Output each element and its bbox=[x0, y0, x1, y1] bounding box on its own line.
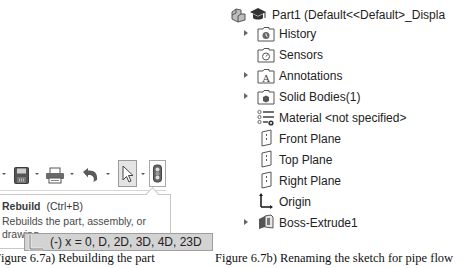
expand-arrow-icon[interactable] bbox=[244, 30, 248, 36]
annotations-folder-icon: A bbox=[257, 67, 275, 85]
origin-icon bbox=[257, 192, 275, 210]
new-dropdown-arrow-icon[interactable] bbox=[2, 173, 6, 175]
solid-bodies-folder-icon bbox=[257, 88, 275, 106]
undo-icon bbox=[80, 167, 100, 184]
undo-dropdown-arrow-icon[interactable] bbox=[106, 173, 110, 175]
print-button[interactable] bbox=[44, 160, 66, 190]
item-label: Boss-Extrude1 bbox=[279, 216, 358, 230]
toolbar-divider bbox=[0, 190, 166, 191]
rebuild-button[interactable] bbox=[149, 160, 166, 187]
plane-icon bbox=[257, 150, 275, 168]
plane-icon bbox=[257, 129, 275, 147]
tooltip-title: Rebuild(Ctrl+B) bbox=[2, 200, 170, 213]
figure-b-caption: Figure 6.7b) Renaming the sketch for pip… bbox=[215, 251, 453, 266]
graduation-cap-icon bbox=[249, 5, 267, 23]
toolbar bbox=[0, 160, 170, 190]
expand-arrow-icon[interactable] bbox=[244, 93, 248, 99]
tree-item-sensors[interactable]: Sensors bbox=[230, 44, 430, 65]
print-dropdown-arrow-icon[interactable] bbox=[70, 173, 74, 175]
tree-root-part1[interactable]: Part1 (Default<<Default>_Displa bbox=[230, 4, 470, 25]
traffic-light-rebuild-icon bbox=[150, 161, 165, 186]
tree-item-material[interactable]: Material <not specified> bbox=[230, 107, 450, 128]
save-icon bbox=[14, 167, 29, 184]
save-button[interactable] bbox=[12, 160, 30, 190]
expand-arrow-icon[interactable] bbox=[244, 219, 248, 225]
item-label: Right Plane bbox=[279, 174, 341, 188]
tree-item-annotations[interactable]: A Annotations bbox=[230, 65, 430, 86]
select-dropdown-arrow-icon[interactable] bbox=[141, 173, 145, 175]
root-label: Part1 (Default<<Default>_Displa bbox=[272, 8, 445, 22]
item-label: Sensors bbox=[279, 48, 323, 62]
sketch-icon bbox=[27, 233, 45, 251]
item-label: Front Plane bbox=[279, 132, 341, 146]
item-label: Annotations bbox=[279, 69, 342, 83]
tree-item-right-plane[interactable]: Right Plane bbox=[230, 170, 430, 191]
undo-button[interactable] bbox=[79, 160, 101, 190]
sensors-folder-icon bbox=[257, 46, 275, 64]
figure-a-caption: Figure 6.7a) Rebuilding the part bbox=[0, 251, 155, 266]
item-label: (-) x = 0, D, 2D, 3D, 4D, 23D bbox=[50, 235, 202, 249]
tree-item-origin[interactable]: Origin bbox=[230, 191, 430, 212]
tree-item-history[interactable]: History bbox=[230, 23, 430, 44]
item-label: Top Plane bbox=[279, 153, 332, 167]
svg-text:A: A bbox=[261, 73, 270, 84]
cursor-arrow-icon bbox=[119, 161, 136, 186]
save-dropdown-arrow-icon[interactable] bbox=[35, 173, 39, 175]
tooltip-shortcut: (Ctrl+B) bbox=[47, 200, 83, 212]
tree-item-top-plane[interactable]: Top Plane bbox=[230, 149, 430, 170]
part-icon bbox=[230, 5, 248, 23]
item-label: History bbox=[279, 27, 316, 41]
print-icon bbox=[45, 167, 65, 184]
item-label: Origin bbox=[279, 195, 311, 209]
extrude-feature-icon bbox=[257, 213, 275, 231]
history-folder-icon bbox=[257, 25, 275, 43]
material-icon bbox=[257, 109, 275, 127]
tooltip-title-text: Rebuild bbox=[2, 200, 41, 212]
select-button[interactable] bbox=[118, 160, 137, 187]
tree-item-sketch-selected[interactable]: (-) x = 0, D, 2D, 3D, 4D, 23D bbox=[24, 233, 213, 251]
tree-item-solid-bodies[interactable]: Solid Bodies(1) bbox=[230, 86, 430, 107]
plane-icon bbox=[257, 171, 275, 189]
expand-arrow-icon[interactable] bbox=[244, 72, 248, 78]
item-label: Solid Bodies(1) bbox=[279, 90, 360, 104]
item-label: Material <not specified> bbox=[279, 111, 406, 125]
tree-item-boss-extrude1[interactable]: Boss-Extrude1 bbox=[230, 212, 430, 233]
tree-item-front-plane[interactable]: Front Plane bbox=[230, 128, 430, 149]
